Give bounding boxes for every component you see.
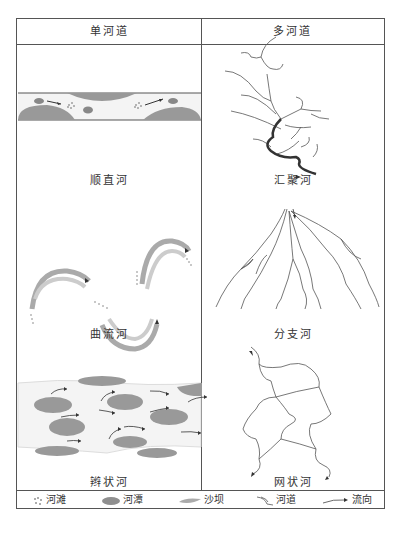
legend-label-pool: 河潭 [123,494,143,505]
legend-label-channel: 河道 [276,494,296,505]
flow-arrow-icon [323,497,349,505]
label-anastomosing-river: 网状河 [201,473,385,489]
braided-river-diagram [17,19,201,490]
legend-label-beach: 河滩 [46,494,66,505]
river-type-table: 单河道 多河道 顺直河 曲流河 [16,18,385,509]
channel-lines-icon [257,496,273,506]
dotted-cluster-icon [33,497,43,505]
legend-item-bar: 河滩 [33,491,66,510]
legend-item-flow: 流向 [323,491,372,510]
legend-item-pool: 河潭 [102,491,143,510]
legend-label-sandbar: 沙坝 [204,494,224,505]
legend-label-flow: 流向 [352,494,372,505]
legend: 河滩 河潭 沙坝 河道 流向 [17,490,384,509]
legend-item-sandbar: 沙坝 [179,491,224,510]
label-braided-river: 辫状河 [17,473,201,489]
sandbar-lens-icon [179,497,201,505]
legend-item-channel: 河道 [257,491,296,510]
pool-ellipse-icon [102,497,120,505]
anastomosing-river-diagram [201,19,384,490]
